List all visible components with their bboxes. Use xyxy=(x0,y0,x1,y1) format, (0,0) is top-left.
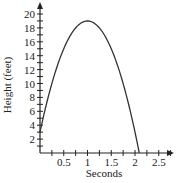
x-axis-label: Seconds xyxy=(86,167,123,179)
y-axis-arrow-icon xyxy=(37,2,43,9)
y-tick-label: 4 xyxy=(30,119,36,131)
y-tick-label: 16 xyxy=(24,36,36,48)
y-tick-label: 6 xyxy=(30,105,36,117)
y-tick-label: 18 xyxy=(24,22,36,34)
y-tick-label: 14 xyxy=(24,50,36,62)
y-tick-label: 12 xyxy=(24,64,35,76)
y-tick-label: 2 xyxy=(30,133,36,145)
y-axis-label: Height (feet) xyxy=(1,56,14,113)
x-tick-label: 0.5 xyxy=(57,156,71,168)
y-tick-label: 20 xyxy=(24,8,36,20)
y-tick-label: 8 xyxy=(30,91,36,103)
x-tick-label: 2 xyxy=(132,156,138,168)
y-tick-label: 10 xyxy=(24,78,36,90)
trajectory-curve xyxy=(40,21,139,153)
x-tick-label: 2.5 xyxy=(152,156,166,168)
trajectory-line xyxy=(40,21,139,153)
height-vs-time-chart: 2468101214161820 0.511.522.5 Seconds Hei… xyxy=(0,0,176,183)
